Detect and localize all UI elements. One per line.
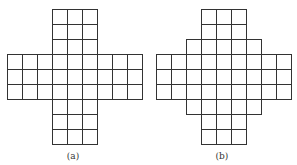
grid-cell xyxy=(232,40,247,55)
grid-cell xyxy=(202,70,217,85)
grid-cell xyxy=(202,10,217,25)
grid-cell xyxy=(232,55,247,70)
grid-cell xyxy=(202,25,217,40)
grid-cell xyxy=(202,100,217,115)
grid-cell xyxy=(232,115,247,130)
grid-cell xyxy=(172,55,187,70)
grid-cell xyxy=(187,55,202,70)
grid-cell xyxy=(232,10,247,25)
grid-cell xyxy=(277,85,292,100)
grid-cell xyxy=(232,70,247,85)
grid-cell xyxy=(217,100,232,115)
grid-cell xyxy=(202,115,217,130)
grid-cell xyxy=(202,55,217,70)
grid-cell xyxy=(247,70,262,85)
grid-cell xyxy=(172,70,187,85)
grid-cell xyxy=(217,10,232,25)
grid-cell xyxy=(247,85,262,100)
grid-cell xyxy=(217,55,232,70)
grid-cell xyxy=(262,55,277,70)
grid-cell xyxy=(247,40,262,55)
grid-cell xyxy=(217,25,232,40)
grid-cell xyxy=(217,115,232,130)
grid-cell xyxy=(187,70,202,85)
grid-cell xyxy=(277,70,292,85)
grid-cell xyxy=(262,85,277,100)
grid-cell xyxy=(217,40,232,55)
grid-cell xyxy=(157,70,172,85)
grid-cell xyxy=(262,70,277,85)
grid-cell xyxy=(232,25,247,40)
grid-cell xyxy=(187,85,202,100)
grid-cell xyxy=(172,85,187,100)
figure-b: (b) xyxy=(0,0,148,165)
grid-cell xyxy=(217,85,232,100)
grid-cell xyxy=(247,55,262,70)
grid-cell xyxy=(217,70,232,85)
grid-cell xyxy=(157,55,172,70)
grid-cell xyxy=(232,85,247,100)
grid-cell xyxy=(232,130,247,145)
grid-b xyxy=(0,0,297,150)
grid-cell xyxy=(187,100,202,115)
grid-cell xyxy=(157,85,172,100)
grid-cell xyxy=(187,40,202,55)
grid-cell xyxy=(232,100,247,115)
grid-cell xyxy=(202,85,217,100)
grid-cell xyxy=(217,130,232,145)
grid-cell xyxy=(277,55,292,70)
grid-cell xyxy=(202,40,217,55)
grid-cell xyxy=(247,100,262,115)
grid-cell xyxy=(202,130,217,145)
caption-b: (b) xyxy=(207,150,237,162)
